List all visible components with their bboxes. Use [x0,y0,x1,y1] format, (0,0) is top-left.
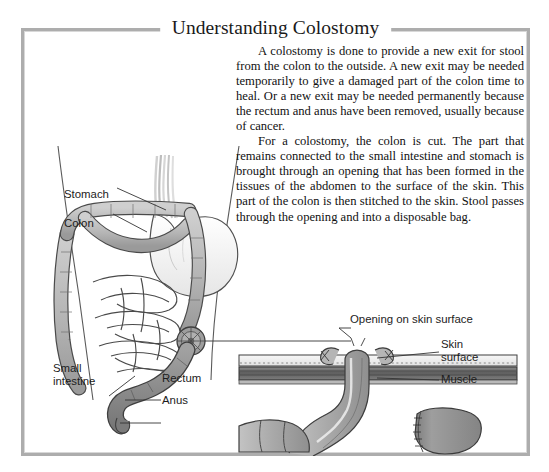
label-stomach: Stomach [64,188,109,201]
label-skin-surface-line1: Skin [441,338,463,351]
paragraph-2: For a colostomy, the colon is cut. The p… [236,134,524,224]
label-skin-surface-line2: surface [441,351,478,364]
label-small-intestine-line2: intestine [53,375,95,388]
rectum-organ [115,350,187,433]
paragraph-1: A colostomy is done to provide a new exi… [236,44,524,134]
label-rectum: Rectum [162,372,201,385]
page-root: Stomach Colon Small intestine Rectum Anu… [0,0,549,472]
label-opening-on-skin-surface: Opening on skin surface [350,313,473,326]
label-muscle: Muscle [441,373,477,386]
label-anus: Anus [162,394,188,407]
label-colon: Colon [64,217,94,230]
small-intestine-organ [93,275,181,376]
page-title: Understanding Colostomy [162,17,390,39]
article-text-column: A colostomy is done to provide a new exi… [236,44,524,225]
label-small-intestine-line1: Small [53,362,81,375]
